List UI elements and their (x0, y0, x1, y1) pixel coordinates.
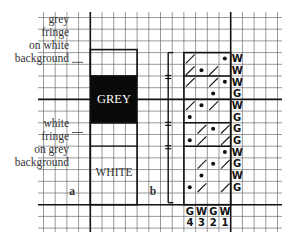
slash-stitch (209, 101, 218, 110)
row-color-label: W (232, 147, 243, 158)
dot-stitch (188, 138, 192, 142)
dot-stitch (188, 115, 192, 119)
dot-stitch (199, 173, 203, 177)
column-color-label: G (208, 206, 219, 217)
dot-stitch (199, 103, 203, 107)
dot-stitch (211, 162, 215, 166)
slash-stitch (221, 137, 230, 146)
row-color-label: G (232, 112, 243, 123)
column-color-label: W (220, 206, 231, 217)
dot-stitch (211, 92, 215, 96)
label-grey-fringe-line4: background (0, 52, 69, 64)
column-number-label: 2 (208, 217, 219, 228)
column-number-label: 3 (196, 217, 207, 228)
slash-stitch (221, 125, 230, 134)
label-grey-fringe-line1: grey (20, 13, 69, 25)
dot-stitch (188, 185, 192, 189)
slash-stitch (198, 160, 207, 169)
dot-stitch (223, 150, 227, 154)
dot-stitch (223, 80, 227, 84)
slash-stitch (186, 101, 195, 110)
slash-stitch (198, 137, 207, 146)
label-grey-fringe-line2: fringe (20, 26, 69, 38)
label-white-fringe-line3: on grey (0, 143, 69, 155)
slash-stitch (198, 125, 207, 134)
grey-block-label: GREY (91, 92, 137, 107)
row-color-label: G (232, 135, 243, 146)
row-color-label: G (232, 123, 243, 134)
panel-a-letter: a (66, 185, 78, 197)
slash-stitch (209, 66, 218, 75)
row-color-label: W (232, 170, 243, 181)
slash-stitch (186, 66, 195, 75)
dot-stitch (199, 68, 203, 72)
dot-stitch (211, 127, 215, 131)
row-color-label: G (232, 88, 243, 99)
label-white-fringe-line4: background (0, 156, 69, 168)
row-color-label: G (232, 158, 243, 169)
column-number-label: 4 (184, 217, 195, 228)
slash-stitch (221, 183, 230, 192)
slash-stitch (186, 78, 195, 87)
row-color-label: W (232, 53, 243, 64)
slash-stitch (209, 78, 218, 87)
column-color-label: W (196, 206, 207, 217)
slash-stitch (221, 160, 230, 169)
white-block-label: WHITE (91, 166, 137, 178)
label-white-fringe-line2: fringe (20, 130, 69, 142)
column-color-label: G (184, 206, 195, 217)
slash-stitch (198, 183, 207, 192)
dot-stitch (223, 56, 227, 60)
slash-stitch (186, 55, 195, 64)
row-color-label: W (232, 65, 243, 76)
panel-b-letter: b (147, 185, 159, 197)
column-number-label: 1 (220, 217, 231, 228)
knitting-chart-figure: grey fringe on white background white fr… (0, 0, 288, 237)
row-color-label: G (232, 182, 243, 193)
label-white-fringe-line1: white (20, 117, 69, 129)
label-grey-fringe-line3: on white (0, 39, 69, 51)
row-color-label: W (232, 77, 243, 88)
row-color-label: W (232, 100, 243, 111)
